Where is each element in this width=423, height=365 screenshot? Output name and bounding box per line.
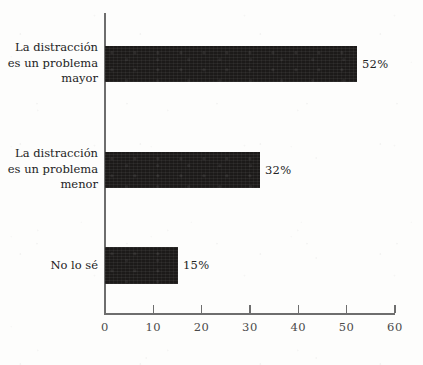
x-axis-tick-label: 20 [194,320,210,334]
x-axis-tick-mark [153,305,154,313]
x-axis-tick-label: 0 [101,320,109,334]
x-axis-tick-mark [104,305,105,313]
bar-value-label: 15% [183,258,209,272]
x-axis-tick-label: 40 [290,320,306,334]
x-axis-tick-mark [394,305,395,313]
x-axis-tick-label: 60 [387,320,403,334]
bar-rect[interactable] [105,46,357,82]
x-axis-line [104,313,395,315]
bar-category-label: La distracción es un problema mayor [8,40,98,87]
x-axis-tick-mark [298,305,299,313]
x-axis-tick-label: 50 [339,320,355,334]
x-axis-tick-mark [201,305,202,313]
bar-value-label: 52% [362,57,388,71]
bar-chart-figure: 0 10 20 30 40 50 60 La distracción es un… [0,0,423,365]
bar-rect[interactable] [105,247,178,284]
x-axis-tick-mark [249,305,250,313]
bar-category-label: No lo sé [50,258,98,274]
x-axis-tick-mark [346,305,347,313]
plot-area: 0 10 20 30 40 50 60 La distracción es un… [0,0,423,365]
x-axis-tick-label: 30 [242,320,258,334]
bar-rect[interactable] [105,152,260,188]
bar-value-label: 32% [265,163,291,177]
x-axis-tick-label: 10 [145,320,161,334]
bar-category-label: La distracción es un problema menor [8,146,98,193]
